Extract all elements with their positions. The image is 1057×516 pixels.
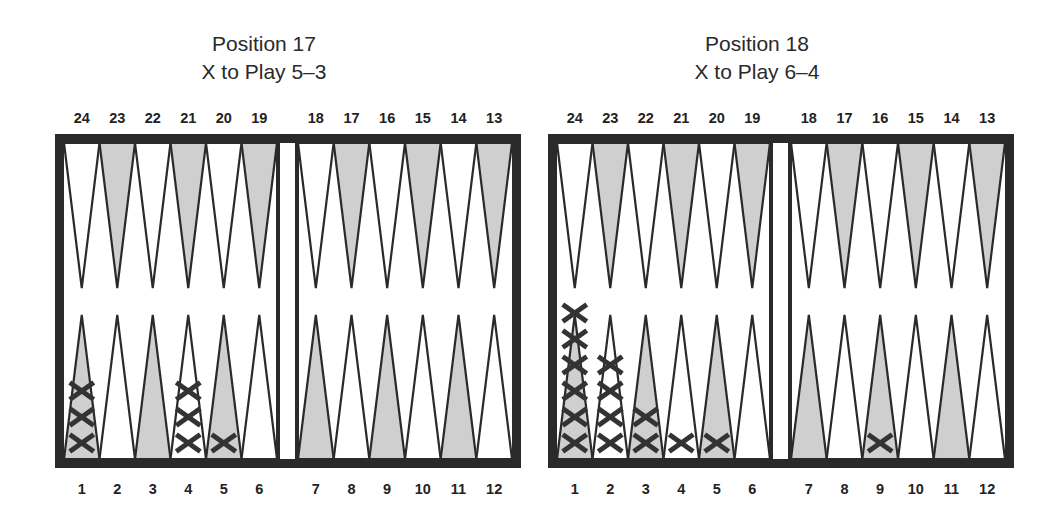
point-label-11: 11 [937, 481, 967, 497]
point-label-3: 3 [631, 481, 661, 497]
point-label-17: 17 [337, 110, 367, 126]
backgammon-board [0, 0, 528, 516]
point-label-2: 2 [595, 481, 625, 497]
point-label-16: 16 [372, 110, 402, 126]
point-label-22: 22 [631, 110, 661, 126]
backgammon-board [493, 0, 1021, 516]
point-label-20: 20 [702, 110, 732, 126]
point-label-23: 23 [595, 110, 625, 126]
point-label-10: 10 [408, 481, 438, 497]
point-label-12: 12 [972, 481, 1002, 497]
point-label-6: 6 [737, 481, 767, 497]
bar-left-edge [769, 143, 773, 459]
point-label-19: 19 [244, 110, 274, 126]
point-label-9: 9 [865, 481, 895, 497]
point-label-5: 5 [209, 481, 239, 497]
point-label-9: 9 [372, 481, 402, 497]
point-label-1: 1 [67, 481, 97, 497]
point-label-8: 8 [830, 481, 860, 497]
point-label-7: 7 [794, 481, 824, 497]
position-17-diagram: Position 17 X to Play 5–3 24232221201918… [0, 0, 528, 516]
position-18-diagram: Position 18 X to Play 6–4 24232221201918… [493, 0, 1021, 516]
point-label-5: 5 [702, 481, 732, 497]
bar-right-edge [295, 143, 299, 459]
point-label-10: 10 [901, 481, 931, 497]
point-label-8: 8 [337, 481, 367, 497]
point-label-15: 15 [901, 110, 931, 126]
point-label-4: 4 [666, 481, 696, 497]
point-label-23: 23 [102, 110, 132, 126]
point-label-17: 17 [830, 110, 860, 126]
point-label-21: 21 [666, 110, 696, 126]
point-label-7: 7 [301, 481, 331, 497]
point-label-13: 13 [972, 110, 1002, 126]
point-label-18: 18 [301, 110, 331, 126]
point-label-4: 4 [173, 481, 203, 497]
point-label-24: 24 [560, 110, 590, 126]
point-label-16: 16 [865, 110, 895, 126]
point-label-22: 22 [138, 110, 168, 126]
point-label-3: 3 [138, 481, 168, 497]
bar-right-edge [788, 143, 792, 459]
point-label-2: 2 [102, 481, 132, 497]
point-label-18: 18 [794, 110, 824, 126]
point-label-21: 21 [173, 110, 203, 126]
point-label-6: 6 [244, 481, 274, 497]
bar-left-edge [276, 143, 280, 459]
point-label-11: 11 [444, 481, 474, 497]
point-label-1: 1 [560, 481, 590, 497]
point-label-24: 24 [67, 110, 97, 126]
point-label-14: 14 [937, 110, 967, 126]
point-label-20: 20 [209, 110, 239, 126]
point-label-14: 14 [444, 110, 474, 126]
point-label-19: 19 [737, 110, 767, 126]
point-label-15: 15 [408, 110, 438, 126]
